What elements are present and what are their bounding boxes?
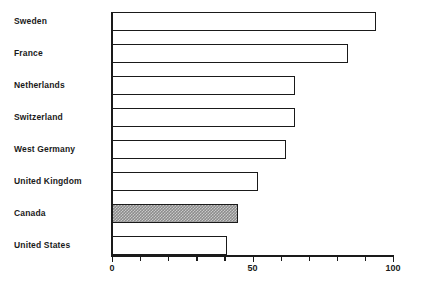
x-axis-tick-minor-10 <box>140 256 141 261</box>
bar-united-states <box>112 236 227 255</box>
x-axis-tick-label-0: 0 <box>109 264 114 273</box>
bar-france <box>112 44 348 63</box>
category-label-france: France <box>14 49 106 58</box>
bar-west-germany <box>112 140 286 159</box>
category-label-netherlands: Netherlands <box>14 81 106 90</box>
bar-canada <box>112 204 238 223</box>
x-axis-tick-minor-30 <box>196 256 197 261</box>
x-axis-tick-major-100 <box>393 256 394 262</box>
bar-united-kingdom <box>112 172 258 191</box>
x-axis-tick-minor-70 <box>309 256 310 261</box>
x-axis-tick-label-100: 100 <box>385 264 400 273</box>
bar-sweden <box>112 12 376 31</box>
category-label-west-germany: West Germany <box>14 145 106 154</box>
category-label-united-kingdom: United Kingdom <box>14 177 106 186</box>
x-axis-tick-major-0 <box>112 256 113 262</box>
category-label-united-states: United States <box>14 241 106 250</box>
x-axis-tick-minor-60 <box>281 256 282 261</box>
x-axis-tick-label-50: 50 <box>247 264 257 273</box>
y-axis-line <box>111 12 113 257</box>
bar-netherlands <box>112 76 295 95</box>
bar-switzerland <box>112 108 295 127</box>
x-axis-tick-minor-80 <box>337 256 338 261</box>
x-axis-tick-minor-20 <box>168 256 169 261</box>
plot-area <box>112 12 393 255</box>
x-axis-tick-major-50 <box>253 256 254 262</box>
category-label-canada: Canada <box>14 209 106 218</box>
x-axis-tick-minor-40 <box>224 256 225 261</box>
category-label-sweden: Sweden <box>14 17 106 26</box>
horizontal-bar-chart: Sweden France Netherlands Switzerland We… <box>0 0 422 288</box>
x-axis-tick-minor-90 <box>365 256 366 261</box>
category-label-switzerland: Switzerland <box>14 113 106 122</box>
